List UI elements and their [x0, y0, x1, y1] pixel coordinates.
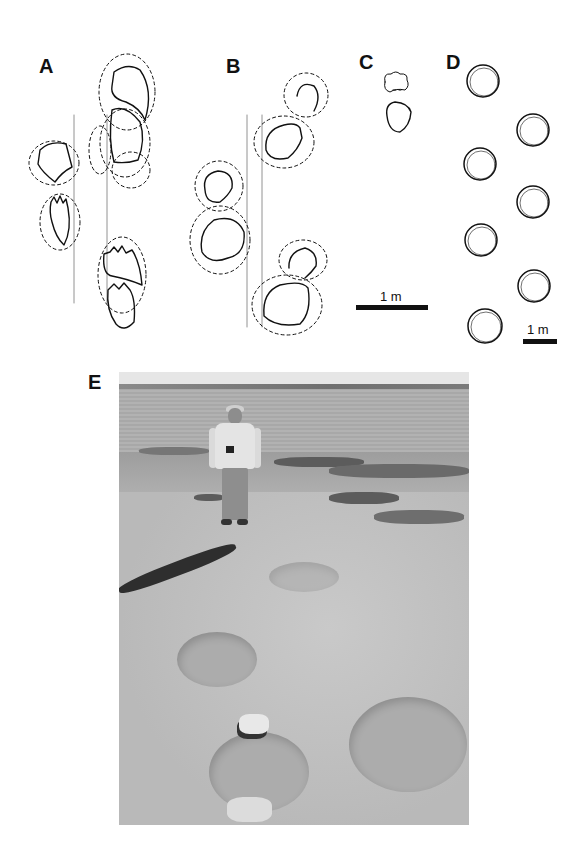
photo-rock [374, 510, 464, 524]
trackway-c [385, 72, 411, 132]
photo-rock [329, 464, 469, 478]
person-legs [222, 468, 248, 520]
photo-lake [119, 388, 469, 456]
photo-rock [139, 447, 209, 455]
camera-icon [226, 446, 234, 453]
track-drawings [0, 0, 584, 360]
photo-footprint [177, 632, 257, 687]
trackway-b [190, 73, 328, 335]
photo-person [209, 408, 263, 528]
panel-label-e: E [88, 372, 101, 392]
scale-label-c: 1 m [380, 290, 402, 303]
photo-stone [227, 797, 272, 822]
photo-horizon [119, 384, 469, 389]
scale-bar-c [356, 305, 428, 310]
trackway-d [464, 65, 550, 343]
person-boot [221, 519, 232, 525]
photo-footprint [349, 697, 467, 792]
photo-panel-e [119, 372, 469, 825]
scale-bar-d [523, 339, 557, 344]
photo-rock [329, 492, 399, 504]
photo-stone [239, 714, 269, 734]
person-boot [237, 519, 248, 525]
person-jacket [215, 423, 255, 469]
photo-footprint [269, 562, 339, 592]
person-head [228, 408, 242, 424]
scale-label-d: 1 m [527, 323, 549, 336]
trackway-a [29, 54, 155, 328]
